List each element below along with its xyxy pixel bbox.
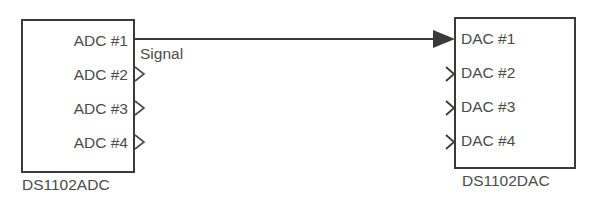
port-label-dac-2: DAC #2 (461, 65, 573, 81)
block-caption-dac: DS1102DAC (462, 173, 550, 189)
port-label-dac-3: DAC #3 (461, 99, 573, 115)
port-out-adc3-triangle-icon[interactable] (135, 101, 144, 115)
port-in-dac2-chevron-icon[interactable] (446, 67, 454, 81)
port-in-dac4-chevron-icon[interactable] (446, 135, 454, 149)
port-label-adc-4: ADC #4 (30, 135, 128, 151)
port-out-adc4-triangle-icon[interactable] (135, 135, 144, 149)
port-label-dac-4: DAC #4 (461, 133, 573, 149)
diagram-canvas: ADC #1 ADC #2 ADC #3 ADC #4 DAC #1 DAC #… (0, 0, 592, 209)
port-in-dac3-chevron-icon[interactable] (446, 101, 454, 115)
port-out-adc2-triangle-icon[interactable] (135, 67, 144, 81)
block-caption-adc: DS1102ADC (22, 177, 110, 193)
port-label-dac-1: DAC #1 (461, 31, 573, 47)
port-label-adc-2: ADC #2 (30, 67, 128, 83)
signal-wire-label: Signal (140, 46, 183, 62)
port-label-adc-3: ADC #3 (30, 101, 128, 117)
signal-wire-arrowhead-icon (433, 30, 455, 48)
port-label-adc-1: ADC #1 (30, 33, 128, 49)
